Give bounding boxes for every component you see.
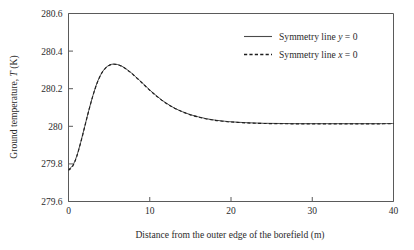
series-symmetry-line-x0	[69, 64, 394, 170]
data-series-group	[69, 64, 394, 170]
x-tick-label: 10	[145, 206, 155, 216]
y-tick-label: 280.4	[41, 47, 63, 57]
y-axis-tickmarks	[69, 14, 74, 202]
y-tick-label: 280.6	[41, 9, 63, 19]
y-tick-label: 280	[48, 122, 63, 132]
y-tick-label: 280.2	[41, 84, 63, 94]
legend-label-x0: Symmetry line x = 0	[279, 49, 358, 60]
x-tick-label: 0	[66, 206, 71, 216]
x-tick-label: 30	[308, 206, 318, 216]
y-axis-tick-labels: 279.6279.8280280.2280.4280.6	[41, 9, 63, 207]
x-axis-tickmarks	[69, 197, 394, 202]
x-tick-label: 40	[389, 206, 399, 216]
x-tick-label: 20	[226, 206, 236, 216]
y-tick-label: 279.6	[41, 197, 63, 207]
x-axis-tick-labels: 010203040	[66, 206, 398, 216]
legend: Symmetry line y = 0 Symmetry line x = 0	[244, 31, 358, 60]
x-axis-title: Distance from the outer edge of the bore…	[135, 229, 324, 241]
legend-label-y0: Symmetry line y = 0	[279, 31, 358, 42]
ground-temperature-line-chart: 279.6279.8280280.2280.4280.6 010203040 S…	[0, 0, 414, 250]
y-tick-label: 279.8	[41, 159, 63, 169]
y-axis-title: Ground temperature, T (K)	[8, 55, 20, 158]
series-symmetry-line-y0	[69, 64, 394, 169]
figure-container: 279.6279.8280280.2280.4280.6 010203040 S…	[0, 0, 414, 250]
